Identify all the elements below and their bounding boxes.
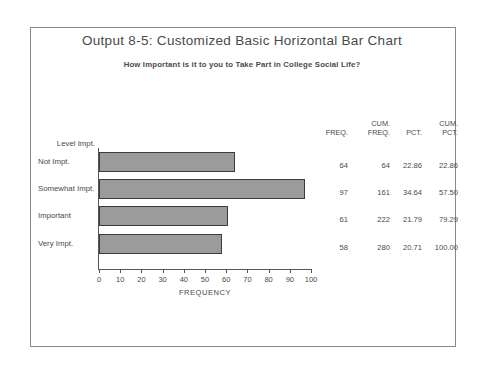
category-label: Not Impt. — [0, 157, 95, 166]
x-axis-tick — [290, 269, 291, 273]
table-cell: 61 — [304, 215, 348, 224]
plot-area: 0102030405060708090100 — [99, 148, 311, 269]
table-cell: 100.00 — [414, 243, 458, 252]
x-axis-tick — [205, 269, 206, 273]
x-axis-title: FREQUENCY — [99, 288, 311, 297]
x-axis-tick — [141, 269, 142, 273]
table-column-header: FREQ. — [308, 119, 348, 137]
category-label: Very Impt. — [0, 239, 95, 248]
x-axis-tick — [269, 269, 270, 273]
bar — [99, 234, 222, 254]
x-axis-tick — [226, 269, 227, 273]
x-axis-tick-label: 100 — [299, 275, 323, 284]
table-cell: 97 — [304, 188, 348, 197]
table-cell: 57.50 — [414, 188, 458, 197]
category-label: Somewhat Impt. — [0, 184, 95, 193]
chart-subtitle: How Important is it to you to Take Part … — [0, 60, 484, 69]
category-label: Important — [0, 211, 95, 220]
table-cell: 64 — [304, 161, 348, 170]
table-column-header: PCT. — [382, 119, 422, 137]
category-axis-header: Level Impt. — [0, 139, 95, 148]
bar — [99, 206, 228, 226]
chart-title: Output 8-5: Customized Basic Horizontal … — [0, 33, 484, 48]
table-cell: 22.86 — [414, 161, 458, 170]
table-column-header: CUM.PCT. — [418, 119, 458, 137]
bar — [99, 152, 235, 172]
chart-output-page: Output 8-5: Customized Basic Horizontal … — [0, 0, 484, 374]
table-cell: 58 — [304, 243, 348, 252]
x-axis-tick — [311, 269, 312, 273]
bar — [99, 179, 305, 199]
x-axis-tick — [247, 269, 248, 273]
x-axis-tick — [163, 269, 164, 273]
x-axis-tick — [99, 269, 100, 273]
x-axis-tick — [184, 269, 185, 273]
x-axis-tick — [120, 269, 121, 273]
table-cell: 79.29 — [414, 215, 458, 224]
